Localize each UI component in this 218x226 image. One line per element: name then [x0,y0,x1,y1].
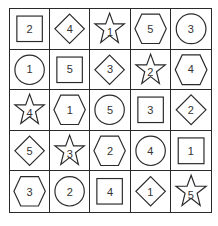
grid-cell[interactable]: 1 [131,171,171,212]
cell-number: 3 [90,50,129,90]
grid-cell[interactable]: 4 [10,90,50,131]
cell-number: 1 [131,171,170,212]
cell-number: 5 [90,90,129,130]
grid-cell[interactable]: 2 [10,9,50,50]
cell-number: 3 [50,131,89,174]
grid-cell[interactable]: 5 [10,131,50,172]
cell-number: 2 [171,90,211,130]
cell-number: 1 [50,90,89,130]
grid-cell[interactable]: 2 [50,171,90,212]
cell-number: 4 [10,90,49,133]
cell-number: 4 [131,131,170,171]
cell-number: 5 [131,9,170,49]
grid-cell[interactable]: 2 [131,50,171,91]
grid-cell[interactable]: 4 [171,50,211,91]
grid-cell[interactable]: 3 [50,131,90,172]
grid-cell[interactable]: 5 [90,90,130,131]
cell-number: 1 [10,50,49,90]
grid-cell[interactable]: 1 [171,131,211,172]
cell-number: 4 [171,50,211,90]
cell-number: 2 [10,9,49,49]
cell-number: 4 [50,9,89,49]
cell-number: 5 [171,171,211,215]
grid-cell[interactable]: 4 [50,9,90,50]
grid-cell[interactable]: 4 [90,171,130,212]
cell-number: 1 [171,131,211,171]
grid-cell[interactable]: 3 [171,9,211,50]
cell-number: 1 [90,9,129,52]
grid-cell[interactable]: 4 [131,131,171,172]
cell-number: 2 [50,171,89,212]
cell-number: 3 [131,90,170,130]
grid-cell[interactable]: 1 [50,90,90,131]
grid-cell[interactable]: 2 [171,90,211,131]
puzzle-grid: 2415315324415325324132415 [9,8,212,213]
cell-number: 4 [90,171,129,212]
grid-cell[interactable]: 1 [90,9,130,50]
grid-cell[interactable]: 3 [10,171,50,212]
cell-number: 3 [10,171,49,212]
cell-number: 2 [131,50,170,93]
grid-cell[interactable]: 5 [171,171,211,212]
cell-number: 3 [171,9,211,49]
grid-cell[interactable]: 3 [90,50,130,91]
grid-cell[interactable]: 3 [131,90,171,131]
cell-number: 5 [10,131,49,171]
cell-number: 2 [90,131,129,171]
cell-number: 5 [50,50,89,90]
grid-cell[interactable]: 5 [50,50,90,91]
grid-cell[interactable]: 2 [90,131,130,172]
grid-cell[interactable]: 1 [10,50,50,91]
grid-cell[interactable]: 5 [131,9,171,50]
